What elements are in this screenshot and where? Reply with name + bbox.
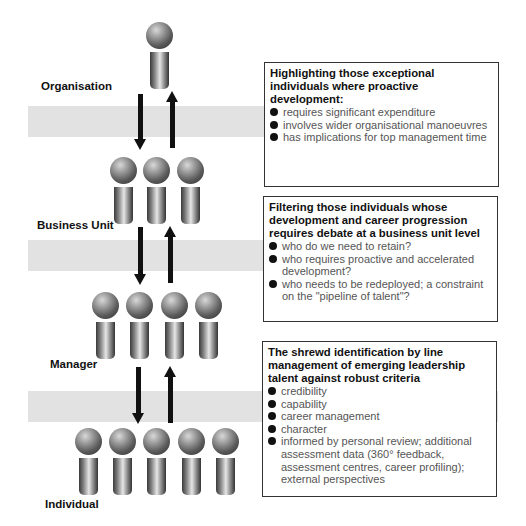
- level-label-organisation: Organisation: [41, 80, 112, 92]
- person-figure-icon: [143, 157, 171, 225]
- arrow-down-icon: [134, 227, 146, 285]
- bullet-list: who do we need to retain? who requires p…: [269, 240, 491, 303]
- person-figure-icon: [110, 157, 138, 225]
- bullet-dot-icon: [268, 437, 276, 445]
- person-figure-icon: [126, 292, 154, 360]
- arrow-down-icon: [134, 94, 146, 150]
- person-figure-icon: [146, 22, 174, 90]
- description-box-business-unit: Filtering those individuals whose develo…: [263, 196, 498, 322]
- bullet-dot-icon: [269, 255, 277, 263]
- list-item: informed by personal review; additional …: [268, 435, 490, 485]
- person-figure-icon: [195, 292, 223, 360]
- bullet-list: credibility capability career management…: [268, 385, 490, 486]
- list-item: capability: [268, 398, 490, 411]
- person-figure-icon: [178, 428, 206, 496]
- list-item: career management: [268, 410, 490, 423]
- bullet-list: requires significant expenditure involve…: [270, 106, 492, 144]
- person-figure-icon: [212, 428, 240, 496]
- list-item: involves wider organisational manoeuvres: [270, 119, 492, 132]
- bullet-dot-icon: [269, 242, 277, 250]
- list-item: who needs to be redeployed; a constraint…: [269, 278, 491, 303]
- person-figure-icon: [109, 428, 137, 496]
- arrow-down-icon: [132, 367, 144, 424]
- person-figure-icon: [161, 292, 189, 360]
- bullet-dot-icon: [268, 412, 276, 420]
- level-label-individual: Individual: [45, 498, 99, 510]
- bullet-dot-icon: [268, 425, 276, 433]
- person-figure-icon: [143, 428, 171, 496]
- box-title: The shrewd identification by line manage…: [268, 346, 490, 385]
- bullet-dot-icon: [269, 280, 277, 288]
- box-title: Filtering those individuals whose develo…: [269, 201, 491, 240]
- person-figure-icon: [92, 292, 120, 360]
- list-item: character: [268, 423, 490, 436]
- list-item: requires significant expenditure: [270, 106, 492, 119]
- list-item: has implications for top management time: [270, 131, 492, 144]
- list-item: who requires proactive and accelerated d…: [269, 253, 491, 278]
- bullet-dot-icon: [270, 121, 278, 129]
- bullet-dot-icon: [268, 387, 276, 395]
- level-label-manager: Manager: [50, 358, 97, 370]
- arrow-up-icon: [164, 366, 176, 423]
- arrow-up-icon: [164, 226, 176, 283]
- description-box-organisation: Highlighting those exceptional individua…: [264, 62, 499, 187]
- person-figure-icon: [75, 428, 103, 496]
- person-figure-icon: [177, 157, 205, 225]
- list-item: credibility: [268, 385, 490, 398]
- level-label-business-unit: Business Unit: [37, 219, 114, 231]
- bullet-dot-icon: [270, 133, 278, 141]
- list-item: who do we need to retain?: [269, 240, 491, 253]
- bullet-dot-icon: [268, 400, 276, 408]
- box-title: Highlighting those exceptional individua…: [270, 67, 492, 106]
- description-box-manager: The shrewd identification by line manage…: [262, 341, 497, 497]
- bullet-dot-icon: [270, 108, 278, 116]
- arrow-up-icon: [166, 91, 178, 148]
